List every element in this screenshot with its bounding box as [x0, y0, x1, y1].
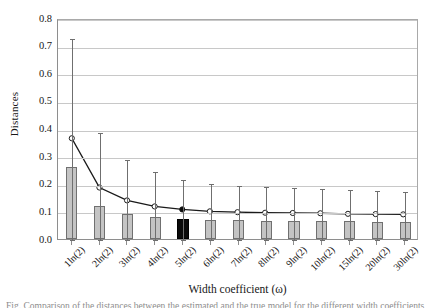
error-bar-stem	[155, 172, 156, 240]
gridline	[58, 103, 417, 104]
error-bar-cap-upper	[237, 186, 242, 187]
x-tick-mark	[99, 241, 100, 245]
y-tick-label: 0.3	[22, 152, 52, 162]
error-bar-stem	[350, 190, 351, 240]
gridline	[58, 20, 417, 21]
y-tick-label: 0.7	[22, 41, 52, 51]
y-tick-label: 0.4	[22, 124, 52, 134]
error-bar-cap-upper	[375, 191, 380, 192]
y-tick-label: 0.8	[22, 14, 52, 24]
line-path	[72, 138, 403, 214]
error-bar-cap-upper	[292, 188, 297, 189]
gridline	[58, 75, 417, 76]
error-bar-cap-upper	[153, 172, 158, 173]
error-bar-stem	[127, 160, 128, 241]
x-axis-tick-labels: 1ln(2)2ln(2)3ln(2)4ln(2)5ln(2)6ln(2)7ln(…	[57, 241, 418, 287]
figure-caption: Fig. Comparison of the distances between…	[6, 301, 427, 308]
line-series-svg	[58, 20, 417, 239]
error-bar-stem	[72, 39, 73, 240]
error-bar-stem	[239, 186, 240, 241]
x-tick-mark	[71, 241, 72, 245]
x-tick-mark	[349, 241, 350, 245]
gridline	[58, 48, 417, 49]
y-axis-tick-labels: 0.00.10.20.30.40.50.60.70.8	[20, 0, 52, 308]
error-bar-cap-upper	[70, 39, 75, 40]
x-tick-mark	[376, 241, 377, 245]
y-tick-label: 0.1	[22, 207, 52, 217]
error-bar-stem	[183, 180, 184, 241]
x-tick-mark	[210, 241, 211, 245]
plot-area	[57, 19, 418, 240]
error-bar-cap-upper	[125, 160, 130, 161]
gridline	[58, 213, 417, 214]
error-bar-stem	[377, 191, 378, 240]
error-bar-cap-upper	[264, 187, 269, 188]
error-bar-stem	[322, 189, 323, 240]
y-tick-label: 0.6	[22, 69, 52, 79]
gridline	[58, 131, 417, 132]
error-bar-cap-upper	[98, 133, 103, 134]
x-axis-title: Width coefficient (ω)	[57, 283, 418, 295]
error-bar-stem	[211, 184, 212, 241]
y-tick-label: 0.5	[22, 96, 52, 106]
gridline	[58, 158, 417, 159]
x-tick-mark	[404, 241, 405, 245]
x-tick-mark	[126, 241, 127, 245]
x-tick-mark	[293, 241, 294, 245]
error-bar-stem	[294, 188, 295, 240]
error-bar-cap-upper	[348, 190, 353, 191]
error-bar-cap-upper	[320, 189, 325, 190]
x-tick-mark	[265, 241, 266, 245]
error-bar-stem	[405, 192, 406, 240]
x-tick-mark	[238, 241, 239, 245]
error-bar-stem	[266, 187, 267, 240]
x-tick-mark	[321, 241, 322, 245]
chart-figure: Distances 0.00.10.20.30.40.50.60.70.8 1l…	[0, 0, 433, 308]
x-tick-mark	[182, 241, 183, 245]
x-tick-mark	[154, 241, 155, 245]
error-bar-cap-upper	[181, 180, 186, 181]
y-axis-title: Distances	[8, 74, 20, 154]
error-bar-cap-upper	[209, 184, 214, 185]
y-tick-label: 0.0	[22, 235, 52, 245]
y-tick-label: 0.2	[22, 179, 52, 189]
error-bar-stem	[100, 133, 101, 240]
error-bar-cap-upper	[403, 192, 408, 193]
